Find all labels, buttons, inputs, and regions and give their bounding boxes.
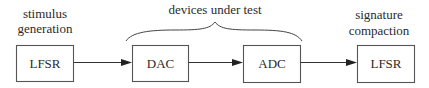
block-label: ADC [258,56,285,71]
annotation-devices-under-test: devices under test [168,2,262,17]
arrow-adc-to-lfsr [301,59,358,66]
arrow-dac-to-adc [189,59,244,66]
annotation-line-1: stimulus [23,6,67,21]
annotation-stimulus-generation: stimulus generation [18,6,73,36]
block-diagram: stimulus generation devices under test s… [0,0,429,88]
annotation-line-2: generation [18,21,73,36]
annotation-line-1: signature [355,7,403,22]
block-label: LFSR [370,56,401,71]
block-label: DAC [147,56,174,71]
arrow-lfsr-to-dac [74,59,133,66]
block-lfsr-generator: LFSR [17,46,74,82]
block-dac: DAC [133,46,189,82]
block-adc: ADC [244,46,301,83]
curly-brace [126,22,302,41]
block-lfsr-compactor: LFSR [358,46,415,83]
annotation-signature-compaction: signature compaction [349,7,410,38]
block-label: LFSR [29,56,60,71]
annotation-line-2: compaction [349,23,410,38]
